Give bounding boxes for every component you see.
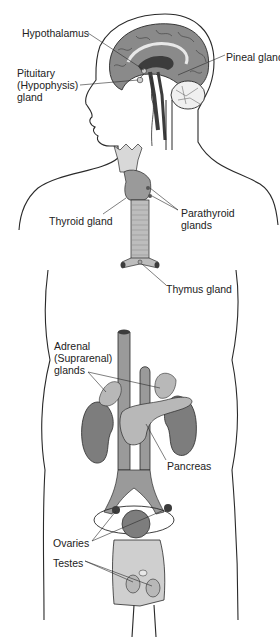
adrenal-gland-right: [155, 373, 176, 398]
label-thyroid-gland: Thyroid gland: [49, 215, 113, 227]
ovary-left: [112, 506, 120, 514]
label-testes: Testes: [53, 557, 83, 569]
label-pineal-gland: Pineal gland: [226, 51, 280, 63]
testis-right: [146, 579, 160, 597]
cerebellum: [171, 81, 205, 109]
brain: [110, 24, 209, 150]
label-pancreas: Pancreas: [167, 460, 211, 472]
label-adrenal-glands: Adrenal (Suprarenal) glands: [54, 340, 112, 376]
thymus-gland: [138, 260, 142, 264]
testis-left: [126, 575, 140, 593]
neck-organs: [114, 144, 160, 268]
label-hypothalamus: Hypothalamus: [22, 27, 89, 39]
left-kidney: [82, 402, 114, 463]
hypothalamus-gland: [142, 69, 147, 74]
label-parathyroid-glands: Parathyroid glands: [181, 207, 235, 231]
parathyroid-gland: [146, 186, 150, 190]
torso-left: [42, 270, 50, 620]
label-ovaries: Ovaries: [53, 537, 89, 549]
uterus: [122, 510, 150, 538]
ovary-right: [164, 504, 172, 512]
aorta: [118, 332, 130, 470]
label-pituitary-gland: Pituitary (Hypophysis) gland: [17, 67, 78, 103]
scrotum: [113, 540, 165, 606]
endocrine-diagram: Hypothalamus Pineal gland Pituitary (Hyp…: [0, 0, 280, 637]
thyroid-gland: [124, 170, 151, 200]
pituitary-gland: [137, 77, 143, 83]
parathyroid-gland: [148, 194, 152, 198]
label-thymus-gland: Thymus gland: [166, 283, 232, 295]
torso-right: [232, 270, 238, 620]
